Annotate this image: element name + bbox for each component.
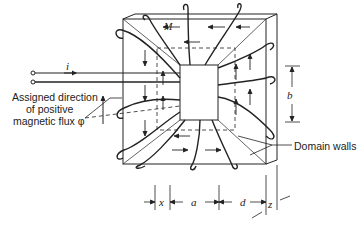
- flux-label-line3: magnetic flux φ: [13, 115, 85, 127]
- flux-label-line1: Assigned direction: [12, 91, 98, 103]
- dimension-z: z: [268, 198, 272, 210]
- domain-walls-label: Domain walls: [294, 140, 356, 152]
- winding-coils: [116, 4, 275, 170]
- core-hole: [180, 65, 218, 120]
- dimension-b: b: [287, 89, 293, 101]
- magnetization-label: M: [164, 21, 172, 33]
- dimension-a: a: [191, 196, 197, 208]
- magnetization-arrows: [143, 25, 252, 152]
- magnetic-core-diagram: i M Assigned direction of positive magne…: [0, 0, 357, 227]
- current-label: i: [66, 60, 69, 72]
- dimension-d: d: [240, 196, 246, 208]
- dimension-x: x: [159, 196, 164, 208]
- flux-label-line2: of positive: [26, 103, 73, 115]
- core-outer-face: [123, 19, 266, 164]
